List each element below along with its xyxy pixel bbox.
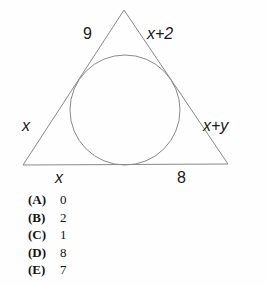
choice-value: 0 [60, 192, 67, 208]
answer-choice-e: (E) 7 [28, 262, 148, 280]
choice-letter: (C) [28, 227, 60, 243]
label-left-side: x [22, 118, 30, 134]
choice-letter: (A) [28, 192, 60, 208]
answer-choice-b: (B) 2 [28, 210, 148, 228]
answer-choice-a: (A) 0 [28, 192, 148, 210]
label-upper-left: 9 [83, 26, 92, 42]
inscribed-circle [70, 55, 180, 165]
label-bottom-right: 8 [177, 170, 186, 186]
triangle-outline [23, 10, 228, 165]
label-right-side: x+y [203, 118, 228, 134]
choice-value: 8 [60, 245, 67, 261]
choice-value: 2 [60, 210, 67, 226]
choice-letter: (D) [28, 245, 60, 261]
label-upper-right: x+2 [147, 26, 173, 42]
answer-choices-list: (A) 0 (B) 2 (C) 1 (D) 8 (E) 7 [28, 192, 148, 280]
choice-letter: (B) [28, 210, 60, 226]
choice-value: 1 [60, 227, 67, 243]
answer-choice-d: (D) 8 [28, 245, 148, 263]
choice-letter: (E) [28, 262, 60, 278]
choice-value: 7 [60, 262, 67, 278]
label-bottom-left: x [55, 170, 63, 186]
answer-choice-c: (C) 1 [28, 227, 148, 245]
